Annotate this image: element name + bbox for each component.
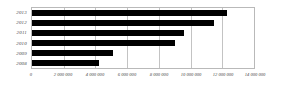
x-axis-tick-label: 2 000 000 (54, 72, 72, 77)
y-axis-category-labels: 2013 2012 2011 2010 2009 2008 (0, 7, 30, 69)
x-axis-tick-label: 0 (30, 72, 32, 77)
x-axis-tick-label: 8 000 000 (150, 72, 168, 77)
x-axis-tick-label: 10 000 000 (181, 72, 202, 77)
bar (32, 40, 175, 46)
bar (32, 20, 214, 26)
bar (32, 30, 184, 36)
y-axis-tick-label: 2012 (0, 17, 30, 27)
bar-row (32, 28, 254, 38)
bar (32, 60, 99, 66)
x-axis-tick-label: 12 000 000 (213, 72, 234, 77)
bar (32, 50, 113, 56)
x-axis-tick-label: 14 000 000 (245, 72, 266, 77)
bar-row (32, 38, 254, 48)
y-axis-tick-label: 2010 (0, 38, 30, 48)
y-axis-tick-label: 2011 (0, 28, 30, 38)
bar-row (32, 8, 254, 18)
x-axis-tick-labels: 02 000 0004 000 0006 000 0008 000 00010 … (31, 72, 255, 84)
x-axis-tick-label: 6 000 000 (118, 72, 136, 77)
y-axis-tick-label: 2013 (0, 7, 30, 17)
y-axis-tick-label: 2009 (0, 48, 30, 58)
bar-row (32, 18, 254, 28)
bar (32, 10, 227, 16)
bar-row (32, 48, 254, 58)
plot-area (31, 7, 255, 69)
bar-row (32, 58, 254, 68)
bar-chart: 2013 2012 2011 2010 2009 2008 02 000 000… (0, 0, 281, 93)
y-axis-tick-label: 2008 (0, 59, 30, 69)
x-axis-tick-label: 4 000 000 (86, 72, 104, 77)
bar-series (32, 8, 254, 68)
